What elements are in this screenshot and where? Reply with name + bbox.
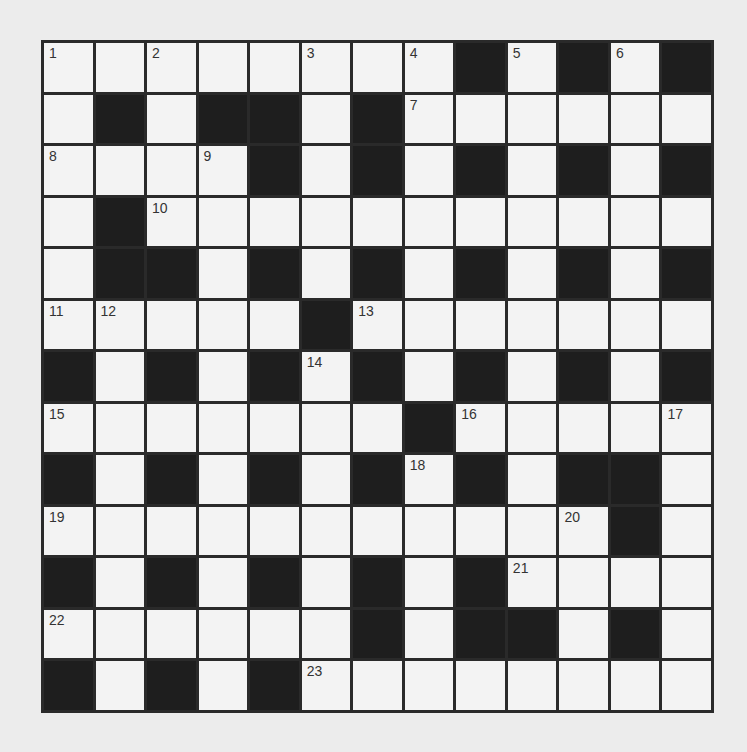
answer-cell[interactable] xyxy=(96,352,145,401)
answer-cell[interactable] xyxy=(662,198,711,247)
answer-cell[interactable]: 8 xyxy=(44,146,93,195)
answer-cell[interactable] xyxy=(199,610,248,659)
answer-cell[interactable] xyxy=(353,661,402,710)
answer-cell[interactable]: 21 xyxy=(508,558,557,607)
answer-cell[interactable] xyxy=(250,507,299,556)
answer-cell[interactable] xyxy=(96,404,145,453)
answer-cell[interactable] xyxy=(405,301,454,350)
answer-cell[interactable] xyxy=(199,507,248,556)
answer-cell[interactable] xyxy=(611,95,660,144)
answer-cell[interactable]: 2 xyxy=(147,43,196,92)
answer-cell[interactable] xyxy=(96,507,145,556)
answer-cell[interactable] xyxy=(611,661,660,710)
answer-cell[interactable]: 15 xyxy=(44,404,93,453)
answer-cell[interactable] xyxy=(147,610,196,659)
answer-cell[interactable] xyxy=(199,558,248,607)
answer-cell[interactable] xyxy=(456,507,505,556)
answer-cell[interactable]: 5 xyxy=(508,43,557,92)
answer-cell[interactable] xyxy=(147,507,196,556)
answer-cell[interactable] xyxy=(250,301,299,350)
answer-cell[interactable] xyxy=(559,198,608,247)
answer-cell[interactable] xyxy=(199,455,248,504)
answer-cell[interactable]: 16 xyxy=(456,404,505,453)
answer-cell[interactable] xyxy=(96,43,145,92)
answer-cell[interactable] xyxy=(147,95,196,144)
answer-cell[interactable] xyxy=(456,198,505,247)
answer-cell[interactable] xyxy=(559,301,608,350)
answer-cell[interactable] xyxy=(405,146,454,195)
answer-cell[interactable] xyxy=(405,249,454,298)
answer-cell[interactable] xyxy=(508,95,557,144)
answer-cell[interactable]: 10 xyxy=(147,198,196,247)
answer-cell[interactable]: 11 xyxy=(44,301,93,350)
answer-cell[interactable] xyxy=(96,558,145,607)
answer-cell[interactable] xyxy=(662,95,711,144)
answer-cell[interactable] xyxy=(405,558,454,607)
answer-cell[interactable]: 22 xyxy=(44,610,93,659)
answer-cell[interactable] xyxy=(611,558,660,607)
answer-cell[interactable]: 23 xyxy=(302,661,351,710)
answer-cell[interactable]: 9 xyxy=(199,146,248,195)
answer-cell[interactable] xyxy=(508,507,557,556)
answer-cell[interactable] xyxy=(96,661,145,710)
answer-cell[interactable]: 7 xyxy=(405,95,454,144)
answer-cell[interactable] xyxy=(508,352,557,401)
answer-cell[interactable] xyxy=(147,404,196,453)
answer-cell[interactable] xyxy=(44,198,93,247)
answer-cell[interactable] xyxy=(456,95,505,144)
answer-cell[interactable] xyxy=(250,198,299,247)
answer-cell[interactable]: 18 xyxy=(405,455,454,504)
answer-cell[interactable] xyxy=(611,301,660,350)
answer-cell[interactable] xyxy=(559,558,608,607)
answer-cell[interactable] xyxy=(44,95,93,144)
answer-cell[interactable] xyxy=(662,558,711,607)
answer-cell[interactable] xyxy=(456,661,505,710)
answer-cell[interactable] xyxy=(508,404,557,453)
answer-cell[interactable] xyxy=(199,352,248,401)
answer-cell[interactable] xyxy=(353,507,402,556)
answer-cell[interactable] xyxy=(662,301,711,350)
answer-cell[interactable]: 6 xyxy=(611,43,660,92)
answer-cell[interactable] xyxy=(405,507,454,556)
answer-cell[interactable] xyxy=(559,661,608,710)
answer-cell[interactable] xyxy=(250,43,299,92)
answer-cell[interactable]: 4 xyxy=(405,43,454,92)
answer-cell[interactable] xyxy=(508,249,557,298)
answer-cell[interactable]: 19 xyxy=(44,507,93,556)
answer-cell[interactable] xyxy=(96,455,145,504)
answer-cell[interactable] xyxy=(96,610,145,659)
answer-cell[interactable] xyxy=(302,610,351,659)
answer-cell[interactable]: 3 xyxy=(302,43,351,92)
answer-cell[interactable] xyxy=(508,198,557,247)
answer-cell[interactable]: 17 xyxy=(662,404,711,453)
answer-cell[interactable] xyxy=(662,610,711,659)
answer-cell[interactable] xyxy=(199,301,248,350)
answer-cell[interactable] xyxy=(353,404,402,453)
answer-cell[interactable] xyxy=(508,661,557,710)
answer-cell[interactable] xyxy=(353,198,402,247)
answer-cell[interactable] xyxy=(456,301,505,350)
answer-cell[interactable] xyxy=(662,455,711,504)
answer-cell[interactable] xyxy=(199,198,248,247)
answer-cell[interactable] xyxy=(302,558,351,607)
answer-cell[interactable]: 12 xyxy=(96,301,145,350)
answer-cell[interactable] xyxy=(199,404,248,453)
answer-cell[interactable] xyxy=(302,507,351,556)
answer-cell[interactable] xyxy=(199,661,248,710)
answer-cell[interactable] xyxy=(611,249,660,298)
answer-cell[interactable] xyxy=(662,661,711,710)
answer-cell[interactable] xyxy=(611,198,660,247)
answer-cell[interactable] xyxy=(508,301,557,350)
answer-cell[interactable] xyxy=(302,198,351,247)
answer-cell[interactable] xyxy=(199,43,248,92)
answer-cell[interactable] xyxy=(611,404,660,453)
answer-cell[interactable] xyxy=(405,661,454,710)
answer-cell[interactable] xyxy=(44,249,93,298)
answer-cell[interactable] xyxy=(302,249,351,298)
answer-cell[interactable]: 20 xyxy=(559,507,608,556)
answer-cell[interactable] xyxy=(611,352,660,401)
answer-cell[interactable] xyxy=(250,610,299,659)
answer-cell[interactable] xyxy=(405,352,454,401)
answer-cell[interactable] xyxy=(353,43,402,92)
answer-cell[interactable] xyxy=(302,404,351,453)
